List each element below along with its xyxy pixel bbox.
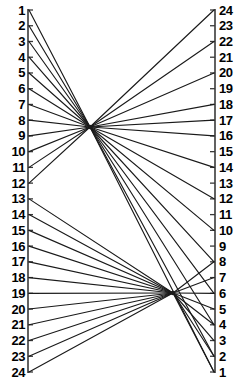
right-axis-label: 2 [219, 350, 226, 363]
right-axis-label: 11 [219, 208, 232, 221]
connector-line-left [29, 293, 173, 325]
left-axis-label: 14 [12, 208, 25, 221]
connector-line-right [90, 41, 214, 127]
lower-node [171, 291, 175, 295]
connector-line-right [173, 293, 214, 356]
left-axis-label: 4 [18, 51, 25, 64]
right-axis-label: 19 [219, 82, 232, 95]
left-axis-label: 22 [12, 334, 25, 347]
connector-line-right [173, 293, 214, 309]
connector-line-right [90, 73, 214, 127]
left-axis-label: 10 [12, 145, 25, 158]
left-axis-label: 17 [12, 255, 25, 268]
connector-line-right [173, 293, 214, 372]
nomogram-figure: 123456789101112131415161718192021222324 … [0, 0, 244, 381]
connector-line-left [29, 41, 90, 127]
connector-line-left [29, 26, 90, 127]
connector-line-left [29, 127, 90, 136]
right-axis-label: 3 [219, 334, 226, 347]
connector-line-left [29, 127, 90, 183]
right-axis-label: 6 [219, 287, 226, 300]
left-axis-label: 16 [12, 240, 25, 253]
upper-node [88, 125, 92, 129]
right-axis-label: 20 [219, 66, 232, 79]
right-axis-label: 22 [219, 35, 232, 48]
right-axis-label: 13 [219, 177, 232, 190]
connector-line-left [29, 293, 173, 309]
left-axis-label: 15 [12, 224, 25, 237]
right-axis-label: 1 [219, 366, 226, 379]
left-axis-label: 5 [18, 66, 25, 79]
left-axis-label: 6 [18, 82, 25, 95]
connector-line-left [29, 262, 173, 293]
connector-line-left [29, 73, 90, 127]
right-axis-label: 5 [219, 303, 226, 316]
connector-line-left [29, 127, 90, 152]
left-axis-label: 21 [12, 318, 25, 331]
left-axis-label: 19 [12, 287, 25, 300]
left-axis-label: 20 [12, 303, 25, 316]
connector-line-left [29, 215, 173, 293]
left-axis-label: 2 [18, 19, 25, 32]
left-axis-label: 8 [18, 114, 25, 127]
right-axis-label: 7 [219, 271, 226, 284]
right-axis-label: 15 [219, 145, 232, 158]
right-axis-label: 24 [219, 4, 232, 17]
right-axis-label: 21 [219, 51, 232, 64]
connector-line-right [90, 127, 214, 230]
connector-line-right [90, 127, 214, 293]
left-axis-label: 18 [12, 271, 25, 284]
connector-line-left [29, 293, 173, 341]
connector-line-left [29, 127, 90, 167]
connector-line-left [29, 293, 173, 372]
left-axis-label: 12 [12, 177, 25, 190]
right-axis-label: 16 [219, 129, 232, 142]
right-axis-label: 4 [219, 318, 226, 331]
right-axis-label: 12 [219, 192, 232, 205]
connector-line-right [90, 10, 214, 127]
right-axis-label: 14 [219, 161, 232, 174]
left-axis-label: 3 [18, 35, 25, 48]
left-axis-label: 1 [18, 4, 25, 17]
right-axis-label: 9 [219, 240, 226, 253]
right-axis-label: 18 [219, 98, 232, 111]
left-axis-label: 23 [12, 350, 25, 363]
right-axis-label: 17 [219, 114, 232, 127]
connector-line-right [173, 293, 214, 325]
left-axis-label: 9 [18, 129, 25, 142]
left-axis-label: 11 [12, 161, 25, 174]
connector-line-right [90, 127, 214, 136]
right-axis-label: 8 [219, 255, 226, 268]
connector-line-left [29, 199, 173, 293]
lines-layer [0, 0, 244, 381]
connector-line-left [29, 246, 173, 293]
left-axis-label: 24 [12, 366, 25, 379]
left-axis-label: 13 [12, 192, 25, 205]
left-axis-label: 7 [18, 98, 25, 111]
right-axis-label: 10 [219, 224, 232, 237]
connector-line-left [29, 278, 173, 293]
connector-line-left [29, 293, 173, 356]
right-axis-label: 23 [219, 19, 232, 32]
